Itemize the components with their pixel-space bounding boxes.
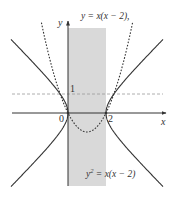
parabola-equation-label: y = x(x − 2), [80, 11, 129, 22]
hyperbola-equation-label: y2 = x(x − 2) [85, 167, 135, 180]
point-two [105, 112, 108, 115]
y-axis-label: y [57, 17, 63, 28]
point-origin [67, 112, 70, 115]
shaded-region [68, 28, 106, 186]
origin-label: 0 [59, 113, 64, 124]
x-tick-2-label: 2 [108, 113, 113, 124]
y-tick-1-label: 1 [70, 83, 75, 94]
hyperbola-eq-rhs: = x(x − 2) [93, 169, 135, 180]
diagram-canvas: y x 0 2 1 y = x(x − 2), y2 = x(x − 2) [0, 0, 174, 197]
x-axis-label: x [160, 116, 166, 127]
